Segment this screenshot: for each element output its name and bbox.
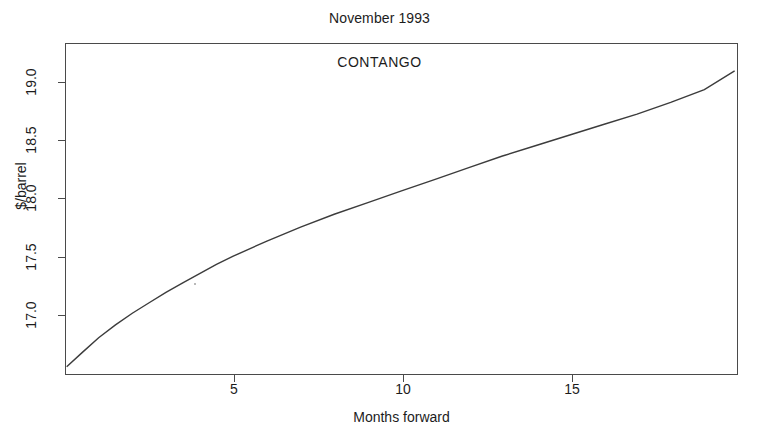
y-tick-label-17-0: 17.0 [23,292,39,338]
x-axis-title: Months forward [65,409,738,425]
chart-title: November 1993 [0,10,759,26]
y-tick-label-19-0: 19.0 [23,59,39,105]
y-tick-mark-17-0 [58,315,65,316]
x-tick-label-10: 10 [383,381,423,397]
x-tick-label-15: 15 [552,381,592,397]
chart-figure: November 1993 CONTANGO 19.0 18.5 18.0 17… [0,0,759,448]
x-tick-label-5: 5 [214,381,254,397]
y-tick-mark-17-5 [58,257,65,258]
scan-artifact-speck [194,283,196,285]
forward-curve-plot [65,43,738,375]
y-tick-mark-18-0 [58,198,65,199]
y-tick-mark-18-5 [58,140,65,141]
y-tick-mark-19-0 [58,82,65,83]
y-axis-title: $/barrel [13,141,29,231]
y-tick-label-17-5: 17.5 [23,234,39,280]
